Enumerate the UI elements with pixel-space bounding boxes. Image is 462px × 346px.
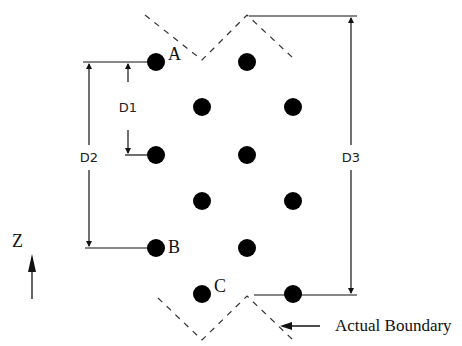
dimension-d2-label: D2 — [80, 150, 98, 165]
boundary-pointer-arrow-icon — [280, 322, 320, 330]
axis-z-label: Z — [12, 231, 23, 251]
point — [284, 192, 302, 210]
dimension-d1-label: D1 — [119, 100, 137, 115]
boundary-bottom-dashed — [158, 296, 293, 340]
point — [193, 192, 211, 210]
point — [147, 146, 165, 164]
point — [238, 53, 256, 71]
lattice-points — [147, 53, 302, 303]
label-a: A — [168, 44, 181, 64]
point-a — [147, 53, 165, 71]
dimension-d3-label: D3 — [342, 150, 360, 165]
point-c — [193, 285, 211, 303]
point — [238, 146, 256, 164]
point — [193, 98, 211, 116]
point-b — [147, 239, 165, 257]
point — [284, 98, 302, 116]
lattice-diagram: D1 D2 D3 A B C Z — [0, 0, 462, 346]
axis-z-arrow-icon — [28, 254, 36, 299]
dimension-d3 — [249, 16, 357, 295]
point — [284, 285, 302, 303]
label-c: C — [214, 276, 226, 296]
dimension-d1 — [83, 62, 148, 155]
label-b: B — [168, 237, 180, 257]
point — [238, 239, 256, 257]
actual-boundary-label: Actual Boundary — [335, 316, 452, 335]
